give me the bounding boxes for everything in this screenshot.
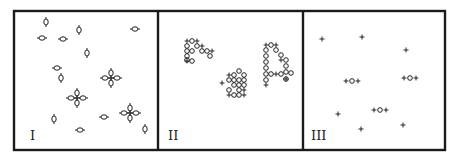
ring-icon [195, 44, 200, 49]
ring-icon [190, 39, 195, 44]
marker-glyphs [320, 35, 419, 132]
particle-icon [78, 96, 88, 100]
particle-icon [75, 128, 85, 132]
aggregate-glyphs [185, 39, 294, 98]
panel-label-iii: III [311, 128, 326, 143]
ring-icon [264, 48, 269, 53]
ring-icon [227, 78, 232, 83]
cluster-icon [66, 88, 88, 108]
ring-pair-icon [402, 76, 419, 81]
ring-icon [264, 78, 269, 83]
plus-icon [274, 43, 279, 48]
cluster-icon [119, 103, 141, 123]
ring-icon [237, 93, 242, 98]
ring-icon [232, 83, 237, 88]
plus-icon [344, 79, 349, 84]
particle-icon [130, 27, 140, 31]
ring-icon [264, 66, 269, 71]
plus-icon [242, 88, 247, 93]
particle-glyphs [37, 17, 147, 134]
ring-icon [242, 73, 247, 78]
panel-label-i: I [30, 128, 35, 143]
ring-icon [237, 78, 242, 83]
particle-icon [112, 76, 122, 80]
ring-icon [242, 83, 247, 88]
plus-icon [195, 39, 200, 44]
particle-icon [128, 113, 132, 123]
aggregate-left [185, 39, 215, 64]
figure: I II III [0, 0, 459, 160]
particle-icon [143, 124, 147, 134]
plus-icon [384, 108, 389, 113]
particle-icon [37, 36, 47, 40]
particle-icon [58, 37, 68, 41]
particle-icon [75, 88, 79, 98]
particle-icon [59, 73, 63, 83]
plus-icon [264, 83, 269, 88]
plus-icon [220, 81, 225, 86]
plus-icon [279, 58, 284, 63]
plus-icon [242, 93, 247, 98]
plus-icon [372, 108, 377, 113]
ring-icon [242, 78, 247, 83]
ring-icon [232, 78, 237, 83]
ring-icon [232, 73, 237, 78]
ring-icon [269, 43, 274, 48]
ring-icon [350, 79, 355, 84]
ring-pair-icon [344, 79, 361, 84]
ring-icon [269, 72, 274, 77]
ring-icon [190, 59, 195, 64]
plus-icon [404, 48, 409, 53]
ring-icon [289, 71, 294, 76]
ring-icon [408, 76, 413, 81]
ring-icon [284, 70, 289, 75]
ring-icon [232, 93, 237, 98]
plus-icon [320, 37, 325, 42]
plus-icon [264, 43, 269, 48]
ring-icon [378, 108, 383, 113]
particle-icon [77, 25, 81, 35]
ring-icon [279, 53, 284, 58]
particle-icon [100, 76, 110, 80]
panel-label-ii: II [168, 128, 178, 143]
ring-icon [190, 49, 195, 54]
ring-icon [237, 69, 242, 74]
plus-icon [359, 127, 364, 132]
plus-icon [401, 123, 406, 128]
ring-icon [227, 88, 232, 93]
ring-icon [264, 54, 269, 59]
ring-pair-icon [372, 108, 389, 113]
plus-icon [360, 35, 365, 40]
figure-canvas: I II III [0, 0, 459, 160]
ring-icon [264, 60, 269, 65]
aggregate-middle [220, 69, 247, 98]
ring-icon [279, 72, 284, 77]
plus-icon [274, 72, 279, 77]
plus-icon [227, 93, 232, 98]
particle-icon [44, 17, 48, 27]
ring-icon [284, 64, 289, 69]
particle-icon [128, 103, 132, 113]
ring-icon [185, 44, 190, 49]
particle-icon [119, 111, 129, 115]
particle-icon [75, 98, 79, 108]
aggregate-right [264, 43, 294, 88]
ring-icon [208, 54, 213, 59]
particle-icon [109, 68, 113, 78]
outer-frame [14, 11, 445, 150]
panel-i: I [30, 17, 147, 143]
cluster-icon [100, 68, 122, 88]
ring-icon [274, 48, 279, 53]
plus-icon [414, 76, 419, 81]
plus-icon [356, 79, 361, 84]
particle-icon [66, 96, 76, 100]
plus-icon [402, 76, 407, 81]
plus-icon [210, 49, 215, 54]
plus-icon [227, 73, 232, 78]
ring-icon [237, 83, 242, 88]
ring-icon [200, 49, 205, 54]
particle-icon [109, 78, 113, 88]
plus-icon [200, 44, 205, 49]
plus-icon [336, 112, 341, 117]
panel-ii: II [168, 39, 293, 143]
